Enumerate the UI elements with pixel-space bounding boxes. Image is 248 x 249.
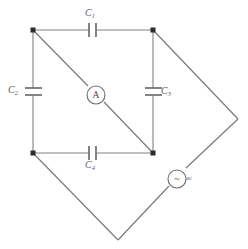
capacitor-c4-label: C4 — [85, 160, 95, 170]
node-bottom-right — [151, 151, 156, 156]
wire-outer-right-lower — [118, 186, 169, 240]
ac-source-text-label: ac — [186, 174, 192, 181]
node-bottom-left — [31, 151, 36, 156]
ammeter-label: A — [89, 88, 103, 102]
capacitor-c3-label: C3 — [161, 86, 171, 96]
capacitor-c2-label: C2 — [8, 85, 18, 95]
circuit-schematic-svg — [0, 0, 248, 249]
wire-diagonal-lower — [104, 102, 153, 153]
wire-outer-right-upper — [186, 119, 238, 168]
wire-outer-bottom-left — [33, 153, 118, 240]
node-top-right — [151, 28, 156, 33]
circuit-diagram: C1 C2 C3 C4 A ~ ac — [0, 0, 248, 249]
capacitor-c1-label: C1 — [85, 8, 95, 18]
wire-outer-top-right — [153, 30, 238, 119]
ac-source-symbol-label: ~ — [170, 172, 184, 186]
node-top-left — [31, 28, 36, 33]
wire-diagonal-upper — [33, 30, 88, 86]
